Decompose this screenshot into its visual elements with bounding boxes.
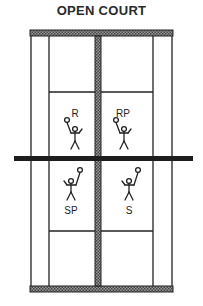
player-label-rp: RP [116, 108, 130, 119]
top-baseline [30, 30, 173, 36]
player-r-figure [65, 118, 82, 149]
player-s-figure [122, 168, 140, 200]
player-sp-figure [64, 168, 82, 200]
net [14, 156, 193, 161]
player-label-sp: SP [64, 205, 78, 216]
player-label-r: R [71, 108, 78, 119]
court-diagram: R RP SP S [0, 0, 203, 306]
player-label-s: S [126, 205, 133, 216]
bottom-baseline [30, 286, 173, 292]
player-rp-figure [114, 118, 131, 149]
